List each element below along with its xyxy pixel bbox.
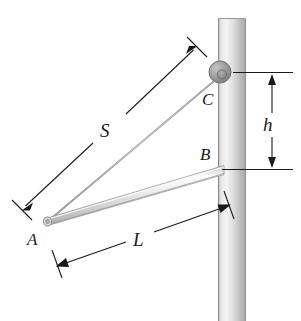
dimension-h-label: h: [263, 114, 273, 135]
dimension-h-arrow-top: [268, 74, 276, 85]
dimension-l: L: [52, 191, 234, 278]
dimension-s-arrow-end: [186, 46, 198, 54]
dimension-s-line-upper: [126, 50, 194, 114]
cable-body: [45, 76, 219, 225]
dimension-l-label: L: [132, 229, 144, 250]
collar-at-c: [209, 61, 231, 83]
dimension-l-line-upper: [154, 207, 226, 233]
figure-container: S L h A B C: [0, 0, 301, 321]
dimension-h-arrow-bottom: [268, 157, 276, 168]
dimension-s-label: S: [100, 120, 110, 141]
dimension-s-line-lower: [26, 143, 94, 206]
label-point-a: A: [26, 230, 38, 249]
collar-hub: [217, 70, 226, 79]
rigid-bar-ab: [42, 166, 224, 228]
label-point-c: C: [202, 90, 214, 109]
dimension-l-line-lower: [60, 242, 126, 265]
label-point-b: B: [200, 145, 211, 164]
bar-highlight: [49, 167, 225, 219]
dimension-s: S: [12, 37, 207, 220]
cable-ac: [45, 76, 219, 225]
statics-diagram: S L h A B C: [0, 0, 301, 321]
